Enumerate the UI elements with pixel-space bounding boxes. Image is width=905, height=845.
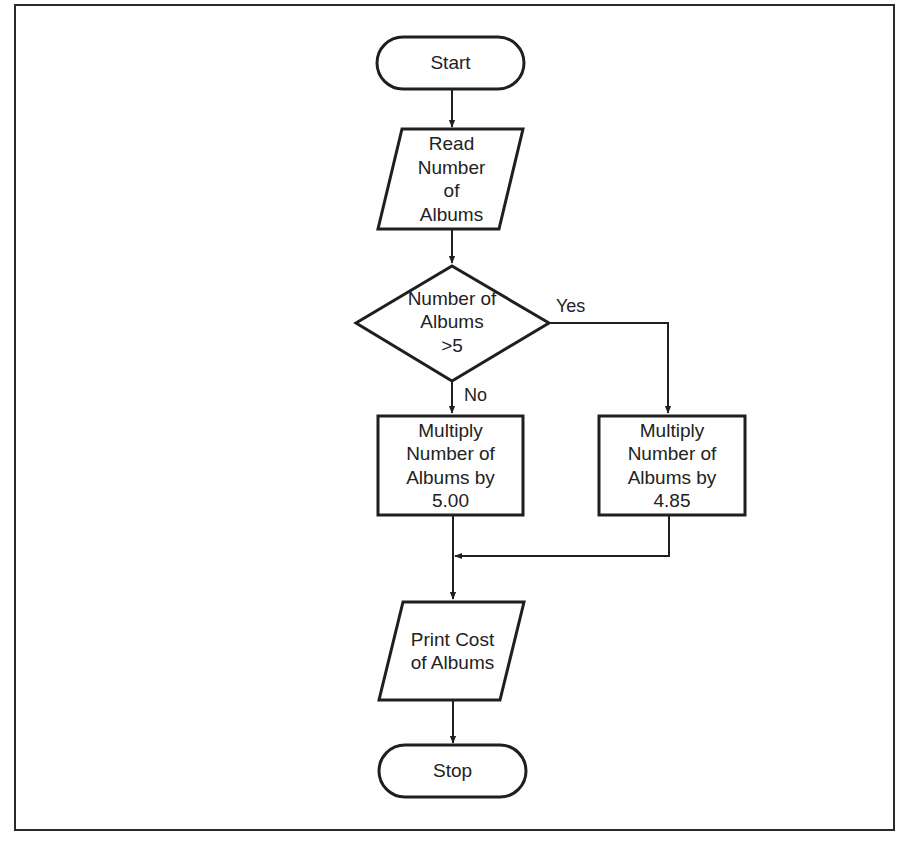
- multiply-yes-process-shape: [599, 416, 745, 515]
- stop-terminal-shape: [379, 745, 526, 797]
- edge-label-yes: Yes: [556, 296, 585, 317]
- read-input-shape: [378, 129, 523, 229]
- edge-label-no: No: [464, 385, 487, 406]
- decision-diamond-shape: [356, 266, 549, 381]
- print-output-shape: [379, 602, 524, 700]
- start-terminal-shape: [377, 37, 524, 89]
- flowchart-canvas: [0, 0, 905, 845]
- multiply-no-process-shape: [378, 416, 523, 515]
- edge-decision-yes: [549, 323, 668, 413]
- edge-multiply-yes-to-merge: [455, 515, 669, 556]
